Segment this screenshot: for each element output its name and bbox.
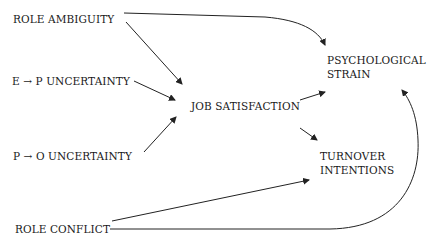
node-turnover-intentions: TURNOVER INTENTIONS [320,149,394,177]
edge-role-ambiguity-to-strain [124,13,325,45]
node-psychological-strain: PSYCHOLOGICAL STRAIN [327,53,426,81]
node-role-ambiguity: ROLE AMBIGUITY [13,12,114,26]
edges-layer [0,0,434,246]
node-psychological-strain-line2: STRAIN [327,67,426,81]
edge-job-satisfaction-to-turnover [300,128,317,140]
node-ep-uncertainty: E → P UNCERTAINTY [12,74,130,88]
node-po-uncertainty: P → O UNCERTAINTY [13,149,132,163]
node-role-conflict: ROLE CONFLICT [15,222,110,236]
edge-role-ambiguity-to-job-satisfaction [126,22,182,84]
node-turnover-intentions-line2: INTENTIONS [320,163,394,177]
edge-po-uncertainty-to-job-satisfaction [144,117,176,152]
edge-role-conflict-to-turnover [112,180,309,221]
node-job-satisfaction: JOB SATISFACTION [191,99,300,113]
edge-ep-uncertainty-to-job-satisfaction [134,81,175,100]
node-psychological-strain-line1: PSYCHOLOGICAL [327,53,426,67]
path-diagram: ROLE AMBIGUITY E → P UNCERTAINTY P → O U… [0,0,434,246]
node-turnover-intentions-line1: TURNOVER [320,149,394,163]
edge-job-satisfaction-to-strain [300,92,325,100]
